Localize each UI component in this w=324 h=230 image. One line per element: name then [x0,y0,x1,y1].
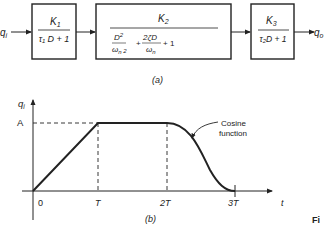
block-2-d2: D2 [114,32,124,42]
x-tick-0: 0 [38,198,43,208]
annotation-arrow [192,122,218,138]
block-2-wn2: ωn 2 [112,45,127,55]
block-3-denominator: τ₂D + 1 [260,34,287,44]
block-3-numerator: K3 [266,15,277,27]
y-axis-label: qi [18,98,25,110]
block-diagram: qi K1 τ₁ D + 1 K2 D2 ωn 2 + 2ζD ωn + 1 K… [0,4,324,85]
block-3 [251,4,294,59]
annotation-line1: Cosine [221,119,246,128]
signal-curve [33,123,235,191]
block-1-denominator: τ₁ D + 1 [39,34,69,44]
block-2-2zd: 2ζD [142,33,157,42]
annotation-line2: function [219,129,247,138]
block-2-plus1: + 1 [163,39,175,48]
block-2-numerator: K2 [158,13,169,25]
figure: qi K1 τ₁ D + 1 K2 D2 ωn 2 + 2ζD ωn + 1 K… [0,0,324,230]
block-2-plus: + [136,39,141,48]
input-signal-chart: qi A 0 T 2T 3T t Cosine function (b) Fi [17,98,320,225]
figure-label-fragment: Fi [312,215,320,225]
x-tick-T: T [95,198,102,208]
x-axis-label: t [281,198,284,208]
block-2-wn: ωn [146,45,156,55]
block-1 [32,4,76,59]
block-1-numerator: K1 [50,16,61,28]
caption-b: (b) [145,214,156,224]
caption-a: (a) [152,75,163,85]
x-tick-2T: 2T [159,198,172,208]
y-tick-A: A [17,117,24,128]
x-tick-3T: 3T [228,198,240,208]
output-label: qo [314,27,324,39]
input-label: qi [0,27,8,39]
